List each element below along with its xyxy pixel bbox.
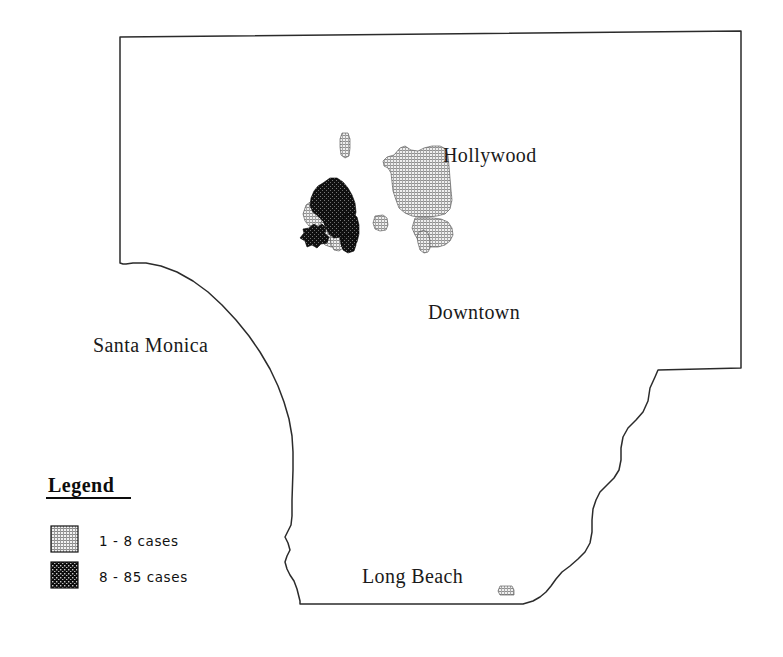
region-hollywood-tail bbox=[417, 230, 430, 253]
region-east-small bbox=[373, 215, 388, 231]
legend-title: Legend bbox=[48, 474, 114, 497]
map-label-long-beach: Long Beach bbox=[362, 565, 463, 588]
map-label-downtown: Downtown bbox=[428, 301, 520, 323]
region-strip-north bbox=[340, 133, 350, 158]
map-svg: Hollywood Downtown Santa Monica Long Bea… bbox=[0, 0, 783, 657]
map-figure: Hollywood Downtown Santa Monica Long Bea… bbox=[0, 0, 783, 657]
legend-swatch-high bbox=[51, 562, 78, 588]
region-long-beach-spot bbox=[498, 586, 514, 595]
legend-label-high: 8 - 85 cases bbox=[99, 569, 188, 585]
region-hollywood-main bbox=[383, 146, 452, 217]
map-label-hollywood: Hollywood bbox=[443, 144, 537, 167]
legend-label-low: 1 - 8 cases bbox=[99, 533, 179, 549]
legend-swatch-low bbox=[51, 526, 78, 552]
map-label-santa-monica: Santa Monica bbox=[93, 334, 208, 356]
legend: Legend 1 - 8 cases 8 - 85 cases bbox=[46, 474, 188, 588]
